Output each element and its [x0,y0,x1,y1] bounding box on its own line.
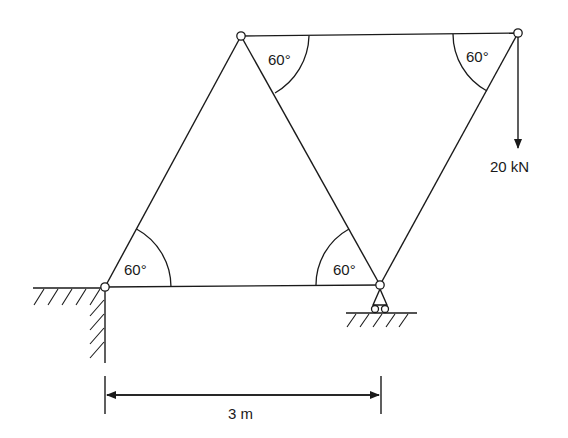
load-label: 20 kN [490,158,529,175]
member-cb-middle-diagonal [241,36,380,285]
dimension-label: 3 m [228,405,253,422]
node-b [376,281,384,289]
node-c [237,32,245,40]
angle-label-a: 60° [124,261,147,278]
angle-label-d: 60° [466,48,489,65]
member-cd-top-chord [241,33,518,36]
roller-support-b [346,289,417,327]
angle-label-c: 60° [268,51,291,68]
angle-label-b: 60° [333,261,356,278]
node-d [514,29,522,37]
truss-diagram: 60° 60° 60° 60° 20 kN [0,0,568,438]
member-ac-left-diagonal [105,36,241,287]
member-ab-bottom-chord [105,285,380,287]
node-a [101,283,109,291]
pin-support-a [33,288,105,363]
angle-arc-a [137,229,172,287]
